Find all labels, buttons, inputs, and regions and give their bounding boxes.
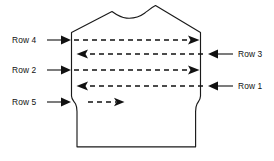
row4-pointer-arrowhead: [61, 36, 71, 45]
row3-label: Row 3: [238, 49, 262, 59]
garment-front-panel-outline: [72, 6, 201, 147]
row3-pointer-arrowhead: [208, 50, 218, 59]
row4-label: Row 4: [12, 35, 36, 45]
row3-label-pointer: Row 3: [208, 49, 262, 59]
garment-outline-group: [72, 6, 201, 147]
row4-label-pointer: Row 4: [12, 35, 71, 45]
knitting-row-diagram: Row 4 Row 2 Row 5 Row 3 Row 1: [0, 0, 274, 161]
row1-label: Row 1: [238, 81, 262, 91]
row1-label-pointer: Row 1: [208, 81, 262, 91]
row2-pointer-arrowhead: [61, 66, 71, 75]
row5-label: Row 5: [12, 97, 36, 107]
row2-label: Row 2: [12, 65, 36, 75]
row1-pointer-arrowhead: [208, 82, 218, 91]
row5-label-pointer: Row 5: [12, 97, 71, 107]
diagram-canvas: Row 4 Row 2 Row 5 Row 3 Row 1: [0, 0, 274, 161]
row2-label-pointer: Row 2: [12, 65, 71, 75]
row5-pointer-arrowhead: [61, 98, 71, 107]
